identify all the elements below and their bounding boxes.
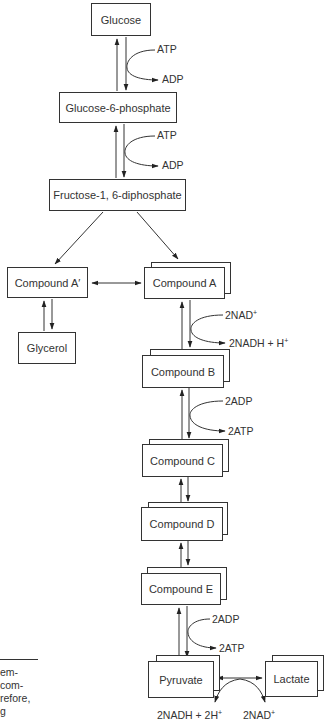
- node-fructose-1-6-diphosphate: Fructose-1, 6-diphosphate: [49, 179, 186, 211]
- cofactor-2nad-in: 2NAD+: [225, 309, 257, 321]
- cofactor-2nadh-out: 2NADH + H+: [229, 337, 288, 349]
- cofactor-2nadh-text: 2NADH + H: [229, 337, 284, 349]
- cofactor-2nadh-2h-text: 2NADH + 2H: [157, 709, 218, 721]
- cofactor-adp-2: ADP: [162, 160, 184, 171]
- node-compound-d: Compound D: [141, 507, 223, 541]
- node-pyruvate: Pyruvate: [148, 661, 214, 698]
- superscript-plus: +: [218, 709, 222, 716]
- cofactor-2atp-2: 2ATP: [219, 643, 244, 654]
- node-glucose-6-phosphate: Glucose-6-phosphate: [59, 92, 177, 123]
- node-glucose: Glucose: [91, 3, 151, 36]
- node-compound-e: Compound E: [141, 573, 221, 605]
- cofactor-adp-1: ADP: [162, 74, 184, 85]
- caption-line: com-: [0, 679, 30, 692]
- node-compound-a: Compound A: [144, 267, 225, 299]
- node-glycerol: Glycerol: [18, 332, 76, 364]
- caption-line: em-: [0, 666, 30, 679]
- cofactor-2adp-2: 2ADP: [212, 614, 239, 625]
- cofactor-atp-2: ATP: [157, 130, 177, 141]
- cofactor-2nadh-2h: 2NADH + 2H+: [157, 709, 222, 721]
- caption-line: g: [0, 705, 30, 718]
- superscript-plus: +: [271, 709, 275, 716]
- cofactor-2adp-1: 2ADP: [225, 396, 252, 407]
- superscript-plus: +: [284, 337, 288, 344]
- caption-text-fragment: em- com- refore, g: [0, 666, 30, 718]
- cofactor-2nad-out: 2NAD+: [243, 709, 275, 721]
- node-compound-c: Compound C: [142, 444, 223, 477]
- caption-rule: [0, 659, 38, 660]
- node-compound-a-prime: Compound A′: [7, 267, 88, 298]
- cofactor-2nad-out-text: 2NAD: [243, 709, 271, 721]
- node-lactate: Lactate: [265, 661, 318, 697]
- caption-line: refore,: [0, 692, 30, 705]
- node-compound-b: Compound B: [142, 355, 224, 388]
- cofactor-2nad-text: 2NAD: [225, 309, 253, 321]
- cofactor-2atp-1: 2ATP: [228, 426, 253, 437]
- superscript-plus: +: [253, 309, 257, 316]
- cofactor-atp-1: ATP: [157, 44, 177, 55]
